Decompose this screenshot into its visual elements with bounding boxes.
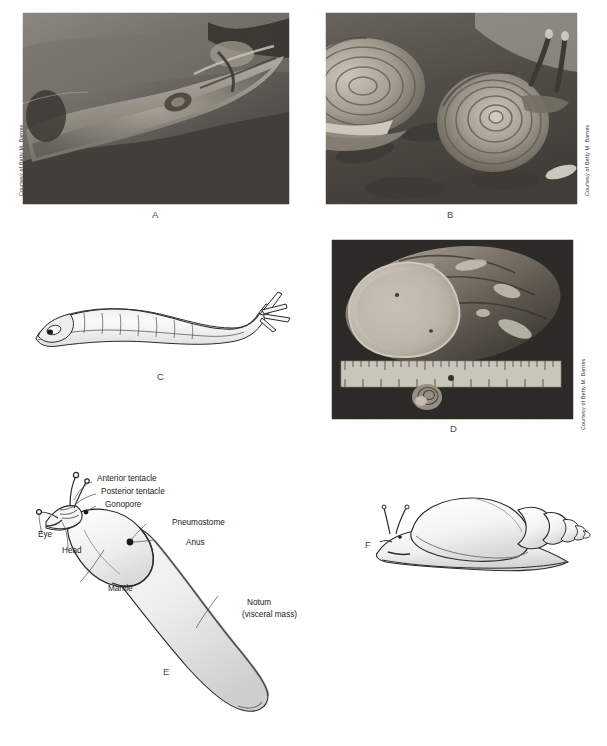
panel-d-photograph xyxy=(331,239,574,420)
panel-a-photograph xyxy=(22,12,290,205)
panel-f-illustration xyxy=(372,490,592,580)
panel-e-illustration xyxy=(30,470,360,730)
label-pneumostome: Pneumostome xyxy=(172,518,225,528)
panel-d-credit: Courtesy of Betty M. Barnes xyxy=(580,359,586,430)
panel-c-drawing xyxy=(28,284,298,370)
panel-d-image xyxy=(331,239,574,420)
label-notum-visceral-mass: (visceral mass) xyxy=(242,610,297,620)
pneumostome-marker xyxy=(127,539,134,546)
label-anus: Anus xyxy=(186,538,205,548)
panel-a-letter: A xyxy=(152,209,159,220)
label-gonopore: Gonopore xyxy=(105,500,141,510)
panel-f-drawing xyxy=(372,490,592,580)
panel-a-image xyxy=(22,12,290,205)
label-head: Head xyxy=(62,546,82,556)
panel-b-image xyxy=(325,12,578,205)
panel-c-illustration xyxy=(28,284,298,370)
figure-plate: Courtesy of Betty M. Barnes A xyxy=(0,0,607,746)
panel-e-letter: E xyxy=(163,666,170,677)
panel-d-letter: D xyxy=(450,423,457,434)
panel-f-letter: F xyxy=(365,539,371,550)
label-posterior-tentacle: Posterior tentacle xyxy=(101,487,165,497)
panel-b-credit: Courtesy of Betty M. Barnes xyxy=(584,125,590,196)
panel-e-diagram xyxy=(30,470,360,730)
label-eye: Eye xyxy=(38,530,52,540)
panel-b-letter: B xyxy=(447,209,454,220)
panel-b-photograph xyxy=(325,12,578,205)
panel-c-letter: C xyxy=(157,371,164,382)
label-mantle: Mantle xyxy=(108,584,133,594)
panel-a-credit: Courtesy of Betty M. Barnes xyxy=(18,125,24,196)
label-notum: Notum xyxy=(247,598,271,608)
label-anterior-tentacle: Anterior tentacle xyxy=(97,474,157,484)
